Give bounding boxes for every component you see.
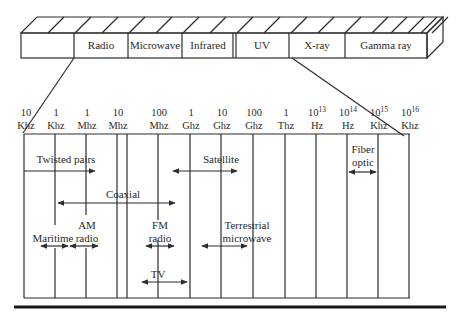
- medium-label: radio: [149, 232, 172, 244]
- spectrum-diagram: RadioMicrowaveInfraredUVX-rayGamma ray 1…: [0, 0, 459, 318]
- frequency-unit: Mhz: [149, 120, 169, 131]
- frequency-unit: Mhz: [108, 120, 128, 131]
- frequency-tick-label: 1016Khz: [401, 105, 419, 131]
- frequency-tick-label: 1014Hz: [339, 105, 357, 131]
- frequency-value: 1016: [401, 105, 419, 118]
- frequency-tick-label: 1Khz: [47, 107, 65, 131]
- hatch-line: [102, 17, 118, 33]
- frequency-tick-label: 1Ghz: [182, 107, 200, 131]
- band-label-uv: UV: [254, 39, 270, 51]
- frequency-unit: Khz: [401, 120, 419, 131]
- band-label-infrared: Infrared: [190, 39, 226, 51]
- frequency-value: 1: [188, 107, 193, 118]
- transmission-media: Twisted pairsSatelliteFiberopticCoaxialA…: [24, 143, 376, 282]
- band-label-gamma-ray: Gamma ray: [360, 39, 412, 51]
- frequency-unit: Ghz: [213, 120, 231, 131]
- frequency-unit: Ghz: [182, 120, 200, 131]
- frequency-exponent: 15: [381, 105, 389, 114]
- frequency-unit: Khz: [47, 120, 65, 131]
- band-label-microwave: Microwave: [130, 39, 180, 51]
- hatch-line: [391, 17, 407, 33]
- frequency-scale-labels: 10Khz1Khz1Mhz10Mhz100Mhz1Ghz10Ghz100Ghz1…: [17, 105, 419, 131]
- hatch-line: [75, 17, 91, 33]
- frequency-tick-label: 1013Hz: [308, 105, 326, 131]
- bar-band-labels: RadioMicrowaveInfraredUVX-rayGamma ray: [88, 39, 412, 51]
- frequency-value: 1015: [370, 105, 388, 118]
- medium-label: Fiber: [351, 143, 375, 155]
- frequency-unit: Khz: [370, 120, 388, 131]
- hatch-line: [291, 17, 307, 33]
- hatch-line: [210, 17, 226, 33]
- medium-twisted-pairs: Twisted pairs: [24, 153, 95, 171]
- medium-tv: TV: [142, 268, 187, 282]
- medium-label: optic: [352, 156, 374, 168]
- hatch-line: [183, 17, 199, 33]
- frequency-value: 1013: [308, 105, 326, 118]
- medium-label: Terrestrial: [224, 219, 269, 231]
- hatch-line: [129, 17, 145, 33]
- medium-label: AM: [78, 219, 96, 231]
- hatch-line: [237, 17, 253, 33]
- frequency-unit: Mhz: [77, 120, 97, 131]
- hatch-line: [318, 17, 334, 33]
- medium-label: Maritime: [33, 232, 74, 244]
- band-label-radio: Radio: [88, 39, 115, 51]
- frequency-tick-label: 10Ghz: [213, 107, 231, 131]
- medium-fiber-optic: Fiberoptic: [349, 143, 376, 172]
- hatch-line: [156, 17, 172, 33]
- frequency-exponent: 13: [319, 105, 327, 114]
- medium-label: Coaxial: [106, 188, 140, 200]
- frequency-tick-label: 1Thz: [278, 107, 295, 131]
- hatch-line: [408, 17, 424, 33]
- medium-label: radio: [76, 232, 99, 244]
- frequency-value: 10: [113, 107, 124, 118]
- medium-label: FM: [152, 219, 168, 231]
- frequency-tick-label: 10Mhz: [108, 107, 128, 131]
- medium-maritime: Maritime: [33, 232, 74, 246]
- frequency-tick-label: 100Ghz: [245, 107, 263, 131]
- medium-terrestrial-microwave: Terrestrialmicrowave: [202, 219, 272, 246]
- frequency-value: 100: [151, 107, 167, 118]
- frequency-unit: Khz: [17, 120, 35, 131]
- frequency-value: 1: [84, 107, 89, 118]
- frequency-unit: Thz: [278, 120, 295, 131]
- frequency-unit: Hz: [311, 120, 324, 131]
- frequency-value: 1: [283, 107, 288, 118]
- frequency-value: 1014: [339, 105, 357, 118]
- medium-label: Satellite: [203, 153, 239, 165]
- frequency-value: 10: [21, 107, 32, 118]
- medium-label: Twisted pairs: [37, 153, 96, 165]
- frequency-value: 10: [217, 107, 228, 118]
- bar-side-face: [427, 17, 443, 58]
- frequency-value: 100: [246, 107, 262, 118]
- frequency-exponent: 14: [350, 105, 358, 114]
- spectrum-bar: RadioMicrowaveInfraredUVX-rayGamma ray: [21, 17, 448, 58]
- hatch-line: [372, 17, 388, 33]
- hatch-line: [264, 17, 280, 33]
- frequency-unit: Hz: [342, 120, 355, 131]
- medium-label: microwave: [223, 232, 272, 244]
- medium-label: TV: [151, 268, 166, 280]
- medium-satellite: Satellite: [173, 153, 239, 171]
- medium-am-radio: AMradio: [70, 219, 99, 246]
- hatch-line: [48, 17, 64, 33]
- frequency-tick-label: 1Mhz: [77, 107, 97, 131]
- frequency-tick-label: 100Mhz: [149, 107, 169, 131]
- frequency-value: 1: [53, 107, 58, 118]
- band-label-x-ray: X-ray: [304, 39, 330, 51]
- frequency-unit: Ghz: [245, 120, 263, 131]
- bar-top-hatching: [48, 17, 448, 33]
- frequency-exponent: 16: [412, 105, 420, 114]
- medium-fm-radio: FMradio: [146, 219, 174, 246]
- hatch-line: [345, 17, 361, 33]
